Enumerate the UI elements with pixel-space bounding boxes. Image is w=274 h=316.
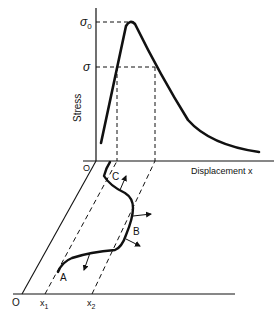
point-b-label: B: [133, 226, 140, 237]
stress-displacement-diagram: σ0 σ Stress O Displacement x C B A O x1 …: [0, 0, 274, 316]
arrow-near-b-lower: [126, 239, 140, 246]
point-c-label: C: [112, 171, 119, 182]
upper-origin-label: O: [83, 163, 90, 173]
point-a-label: A: [60, 272, 67, 283]
stress-axis-label: Stress: [72, 94, 83, 122]
x1-label: x1: [40, 298, 49, 310]
displacement-axis-label: Displacement x: [191, 166, 253, 176]
stress-curve: [101, 22, 259, 152]
crack-front-curve: [58, 162, 133, 272]
arrow-near-c: [120, 176, 126, 190]
sigma0-label: σ0: [80, 15, 92, 31]
sigma-label: σ: [83, 60, 91, 74]
arrow-near-b-upper: [133, 214, 151, 216]
x2-label: x2: [87, 298, 96, 310]
slanted-axis: [22, 161, 96, 294]
lower-origin-label: O: [12, 297, 20, 308]
